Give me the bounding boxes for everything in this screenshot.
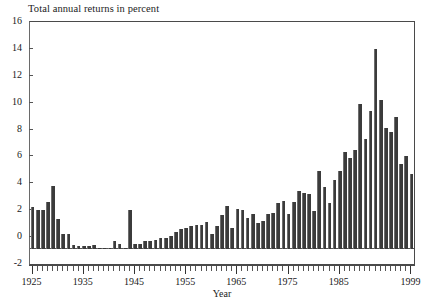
x-axis-minor-tick	[165, 266, 166, 271]
x-axis-minor-tick	[211, 266, 212, 271]
y-axis-tick-label: 8	[17, 124, 22, 134]
x-axis-tick-label: 1945	[124, 276, 144, 287]
bar	[46, 202, 50, 249]
bar	[302, 193, 306, 249]
bar	[97, 248, 101, 249]
x-axis-tick-label: 1955	[175, 276, 195, 287]
bar	[184, 228, 188, 250]
bar	[256, 223, 260, 249]
x-axis-major-tick	[410, 266, 411, 274]
bars-layer	[30, 22, 414, 264]
bar	[312, 211, 316, 249]
bar	[358, 104, 362, 249]
x-axis-minor-tick	[303, 266, 304, 271]
x-axis-major-tick	[339, 266, 340, 274]
bar	[399, 164, 403, 249]
bar	[200, 225, 204, 249]
bar	[364, 139, 368, 249]
bar	[287, 214, 291, 249]
y-axis-tick-label: 0	[17, 231, 22, 241]
x-axis-minor-tick	[344, 266, 345, 271]
bar	[169, 236, 173, 249]
bar	[61, 234, 65, 249]
y-axis-tick-label: -2	[14, 258, 22, 268]
bar	[369, 111, 373, 249]
x-axis-minor-tick	[190, 266, 191, 271]
bar	[261, 221, 265, 249]
bar	[236, 209, 240, 249]
x-axis-minor-tick	[405, 266, 406, 271]
bar	[328, 203, 332, 249]
x-axis-minor-tick	[241, 266, 242, 271]
bar	[77, 246, 81, 249]
bar	[210, 234, 214, 249]
x-axis-minor-tick	[98, 266, 99, 271]
x-axis-minor-tick	[257, 266, 258, 271]
bar	[220, 215, 224, 249]
bar	[307, 194, 311, 249]
x-axis-minor-tick	[282, 266, 283, 271]
bar	[189, 226, 193, 249]
bar	[241, 210, 245, 249]
bar	[82, 246, 86, 249]
x-axis-minor-tick	[390, 266, 391, 271]
x-axis-minor-tick	[231, 266, 232, 271]
x-axis-minor-tick	[293, 266, 294, 271]
x-axis-minor-tick	[129, 266, 130, 271]
bar	[333, 180, 337, 249]
bar	[404, 156, 408, 249]
bar	[323, 187, 327, 249]
bar	[92, 245, 96, 249]
bar	[174, 232, 178, 249]
bar	[317, 171, 321, 249]
x-axis-minor-tick	[329, 266, 330, 271]
x-axis-minor-tick	[354, 266, 355, 271]
x-axis-minor-tick	[103, 266, 104, 271]
x-axis-minor-tick	[277, 266, 278, 271]
bar	[72, 245, 76, 249]
bar	[195, 225, 199, 249]
bar	[297, 191, 301, 249]
bar	[282, 201, 286, 249]
bar	[343, 152, 347, 249]
x-axis-minor-tick	[247, 266, 248, 271]
x-axis-minor-tick	[359, 266, 360, 271]
x-axis-minor-tick	[298, 266, 299, 271]
x-axis-minor-tick	[144, 266, 145, 271]
x-axis-minor-tick	[47, 266, 48, 271]
x-axis-title: Year	[29, 288, 415, 299]
bar	[230, 228, 234, 250]
x-axis-minor-tick	[262, 266, 263, 271]
x-axis-major-tick	[134, 266, 135, 274]
y-axis-tick-label: 4	[17, 177, 22, 187]
x-axis-minor-tick	[395, 266, 396, 271]
x-axis-minor-tick	[272, 266, 273, 271]
x-axis-minor-tick	[108, 266, 109, 271]
x-axis-minor-tick	[119, 266, 120, 271]
x-axis-minor-tick	[62, 266, 63, 271]
x-axis-minor-tick	[369, 266, 370, 271]
x-axis-minor-tick	[160, 266, 161, 271]
x-axis-tick-label: 1935	[73, 276, 93, 287]
x-axis-minor-tick	[42, 266, 43, 271]
bar	[87, 246, 91, 249]
bar	[108, 248, 112, 249]
bar	[56, 219, 60, 249]
bar	[394, 117, 398, 249]
bar	[205, 222, 209, 249]
chart-title: Total annual returns in percent	[28, 3, 159, 14]
bar	[154, 240, 158, 249]
x-axis-minor-tick	[313, 266, 314, 271]
x-axis-minor-tick	[216, 266, 217, 271]
x-axis-tick-label: 1965	[226, 276, 246, 287]
x-axis-tick-label: 1975	[278, 276, 298, 287]
bar	[164, 238, 168, 249]
x-axis-minor-tick	[385, 266, 386, 271]
x-axis-minor-tick	[364, 266, 365, 271]
bar	[36, 210, 40, 249]
bar	[113, 241, 117, 249]
bar	[384, 128, 388, 249]
bar	[123, 248, 127, 249]
bar	[266, 214, 270, 249]
bar	[338, 171, 342, 249]
